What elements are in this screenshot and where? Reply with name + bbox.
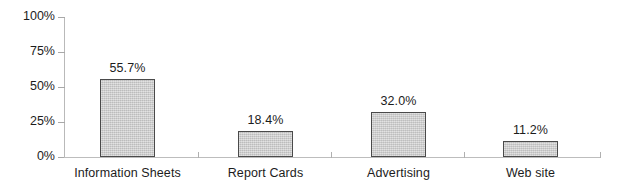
bar-value-label: 11.2% — [491, 123, 571, 137]
bar-chart: 100% 75% 50% 25% 0% 55.7% 18.4% 32.0% 11… — [0, 0, 623, 196]
bar — [238, 131, 293, 157]
bar-value-label: 55.7% — [88, 61, 168, 75]
x-axis-category-label: Advertising — [329, 166, 469, 180]
bar — [503, 141, 558, 157]
x-axis-category-label: Report Cards — [196, 166, 336, 180]
plot-area: 55.7% 18.4% 32.0% 11.2% Information Shee… — [0, 0, 623, 196]
bar-value-label: 18.4% — [226, 113, 306, 127]
x-axis-category-label: Information Sheets — [58, 166, 198, 180]
bar — [100, 79, 155, 157]
bar — [371, 112, 426, 157]
bar-value-label: 32.0% — [359, 94, 439, 108]
x-axis-category-label: Web site — [461, 166, 601, 180]
